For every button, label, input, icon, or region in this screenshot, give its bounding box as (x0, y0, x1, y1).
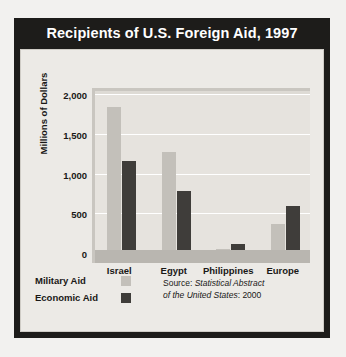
y-tick-label: 1,500 (63, 129, 87, 140)
y-axis-ticks: 05001,0001,5002,000 (39, 92, 87, 257)
bar-group (204, 94, 259, 250)
legend-label: Military Aid (35, 275, 121, 286)
page-title: Recipients of U.S. Foreign Aid, 1997 (46, 25, 297, 41)
source-note: Source: Statistical Abstract of the Unit… (163, 278, 313, 301)
bar-group (150, 94, 205, 250)
bar-group (259, 94, 314, 250)
bar (122, 161, 136, 250)
plot-wrapper: Millions of Dollars 05001,0001,5002,000 … (21, 50, 325, 252)
y-tick-label: 500 (71, 209, 87, 220)
bar (162, 152, 176, 250)
bar (177, 191, 191, 250)
bar-group (95, 94, 150, 250)
y-tick-label: 2,000 (63, 90, 87, 101)
y-tick-label: 0 (82, 249, 87, 260)
axis-baseline (95, 250, 310, 263)
bar (271, 224, 285, 250)
plot-area (92, 88, 310, 263)
source-title: Statistical Abstract (195, 278, 265, 288)
chart-panel: Millions of Dollars 05001,0001,5002,000 … (20, 49, 324, 332)
source-title-line2: of the United States (163, 290, 238, 300)
title-bar: Recipients of U.S. Foreign Aid, 1997 (14, 18, 330, 48)
source-suffix: : 2000 (238, 290, 262, 300)
bar (107, 107, 121, 250)
legend-label: Economic Aid (35, 292, 121, 303)
x-tick-label: Philippines (203, 265, 254, 276)
figure-frame: Recipients of U.S. Foreign Aid, 1997 Mil… (14, 18, 330, 338)
legend-swatch (121, 276, 131, 286)
bars-layer (95, 94, 310, 250)
source-prefix: Source: (163, 278, 195, 288)
legend-swatch (121, 293, 131, 303)
y-tick-label: 1,000 (63, 169, 87, 180)
bar (286, 206, 300, 250)
x-tick-label: Europe (266, 265, 299, 276)
